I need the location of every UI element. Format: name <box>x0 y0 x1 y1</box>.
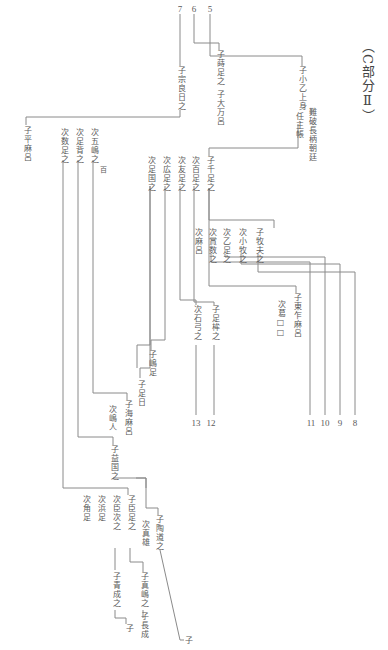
node-ji-kobaku: 次小牧之 <box>237 228 246 264</box>
branch-number-10: 10 <box>321 418 330 428</box>
node-ji-kabaku: 次賞数之 <box>207 228 216 264</box>
node-ji-shimahito: 次嶋人 <box>107 405 116 432</box>
node-ji-tsunoashi: 次角足 <box>81 495 90 522</box>
node-ko-amamaro: 子海麻呂 <box>123 400 132 436</box>
node-ko-omiashi: 子臣足之 <box>126 495 135 531</box>
node-ji-hamaashi: 次浜足 <box>96 495 105 522</box>
branch-number-11: 11 <box>307 418 316 428</box>
node-ko-higashi: 子東乍麻呂 <box>292 293 301 338</box>
node-ko-suedomichi: 子陶道之 <box>154 515 163 551</box>
node-ji-momoashi: 次百足之 <box>190 156 199 192</box>
branch-number-7: 7 <box>178 4 183 14</box>
node-ji-omitsugi: 次臣次之 <box>111 495 120 531</box>
branch-number-12: 12 <box>207 418 216 428</box>
node-ko-seisei: 子青成之 <box>111 572 120 608</box>
node-ji-otoashi: 次乙足之 <box>221 228 230 264</box>
node-hyaku-annotation: 百 <box>98 166 107 174</box>
node-ji-hiroashi: 次広足之 <box>161 156 170 192</box>
node-nin-shucho: 任主帳 <box>294 112 303 139</box>
node-ko-end-1: 子 <box>124 624 133 633</box>
node-ko-koe-ashi-no: 子蒔足之 <box>215 50 224 86</box>
branch-number-6: 6 <box>192 4 197 14</box>
node-ko-sen-ashi-no: 子千足之 <box>205 156 214 192</box>
node-ji-kazuashi: 次数足之 <box>59 128 68 164</box>
node-ko-end-2: 子 <box>183 636 192 645</box>
node-ji-tomoashi: 次友足之 <box>176 156 185 192</box>
node-ji-gojima: 次五嶋之 <box>89 128 98 164</box>
node-ko-mashima: 子真嶋之 <box>139 572 148 608</box>
node-ko-ashimune: 子足桙之 <box>210 305 219 341</box>
branch-number-13: 13 <box>192 418 201 428</box>
node-nanba-nagae-asomi: 難破長柄朝廷 <box>307 108 316 162</box>
node-ji-ashikuni: 次足国之 <box>146 156 155 192</box>
node-ko-hiramaro: 子平麻呂 <box>22 126 31 162</box>
node-ko-ootomaro: 子大万呂 <box>215 90 224 126</box>
node-ji-ashise: 次足背之 <box>74 128 83 164</box>
node-ko-munakata: 子宗良日之 <box>176 66 185 111</box>
branch-number-8: 8 <box>353 418 358 428</box>
section-title: （C部分Ⅱ） <box>360 40 374 123</box>
node-ko-ashihi: 子足日 <box>136 380 145 407</box>
node-ko-shimaashi: 子嶋足 <box>147 350 156 377</box>
node-ko-shoot-kamimi: 子小乙上身 <box>297 66 306 111</box>
node-ji-asamaro: 次麻呂 <box>193 228 202 255</box>
node-ko-nagashige: 子長成 <box>139 612 148 639</box>
node-ji-mao: 次真雄 <box>140 520 149 547</box>
branch-number-9: 9 <box>338 418 343 428</box>
node-ji-ishiyumi: 次石弓之 <box>192 305 201 341</box>
node-ji-sato: 次葛□□ <box>276 300 285 338</box>
node-ko-masukuni: 子益国之 <box>109 445 118 481</box>
node-ko-makifu: 子牧夫之 <box>254 228 263 264</box>
branch-number-5: 5 <box>208 4 213 14</box>
